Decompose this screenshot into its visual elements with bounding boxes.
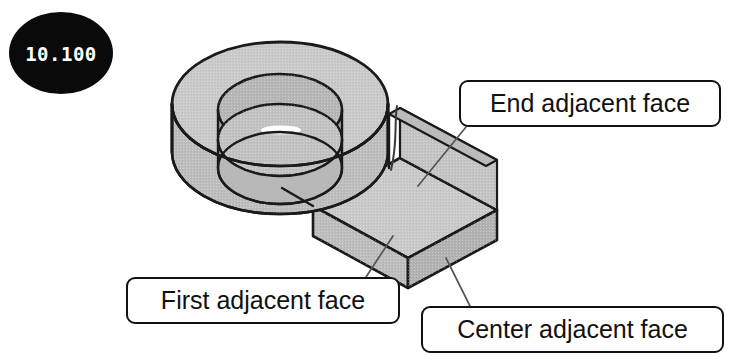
figure-canvas: 10.100 bbox=[0, 0, 735, 361]
callout-center-label: Center adjacent face bbox=[457, 317, 688, 342]
callout-first-adjacent-face: First adjacent face bbox=[126, 277, 400, 324]
callout-center-adjacent-face: Center adjacent face bbox=[421, 306, 724, 353]
callout-end-label: End adjacent face bbox=[490, 91, 690, 116]
callout-end-adjacent-face: End adjacent face bbox=[459, 80, 721, 127]
callout-first-label: First adjacent face bbox=[161, 288, 365, 313]
leader-line-center bbox=[446, 258, 470, 306]
